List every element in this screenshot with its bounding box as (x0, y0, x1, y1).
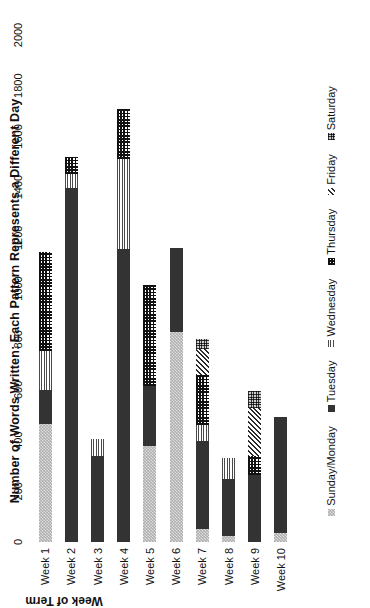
bar-segment-sunday-monday[interactable] (39, 424, 52, 542)
bar-segment-sunday-monday[interactable] (143, 446, 156, 542)
bar-segment-tuesday[interactable] (170, 248, 183, 332)
legend-label: Sunday/Monday (325, 426, 337, 506)
legend-label: Thursday (325, 209, 337, 255)
bar-segment-tuesday[interactable] (196, 441, 209, 530)
bar-segment-wednesday[interactable] (91, 439, 104, 455)
legend-swatch-icon (328, 188, 335, 195)
legend-item-wednesday[interactable]: Wednesday (325, 279, 337, 347)
category-axis-tick-label: Week 10 (275, 548, 287, 591)
bar-segment-tuesday[interactable] (143, 386, 156, 446)
legend-label: Friday (325, 154, 337, 185)
legend-swatch-icon (328, 340, 335, 347)
plot-area (32, 35, 294, 542)
category-axis-tick-label: Week 6 (170, 548, 182, 585)
bar-segment-saturday[interactable] (196, 339, 209, 349)
legend-item-thursday[interactable]: Thursday (325, 209, 337, 265)
category-axis-tick-label: Week 9 (249, 548, 261, 585)
bar-segment-wednesday[interactable] (196, 425, 209, 440)
category-axis: Week of Term Week 1Week 2Week 3Week 4Wee… (32, 542, 294, 602)
bar-segment-wednesday[interactable] (222, 458, 235, 478)
value-axis-tick-label: 1800 (12, 73, 24, 97)
bar-segment-friday[interactable] (248, 408, 261, 456)
bar-segment-tuesday[interactable] (39, 390, 52, 424)
bar-segment-tuesday[interactable] (274, 417, 287, 534)
legend-item-sunday-monday[interactable]: Sunday/Monday (325, 426, 337, 516)
legend-label: Wednesday (325, 279, 337, 337)
bar-row[interactable] (39, 35, 52, 542)
category-axis-tick-label: Week 8 (223, 548, 235, 585)
legend-item-friday[interactable]: Friday (325, 154, 337, 195)
bar-segment-tuesday[interactable] (65, 188, 78, 542)
value-axis-tick-label: 1400 (12, 175, 24, 199)
bar-row[interactable] (91, 35, 104, 542)
bar-segment-sunday-monday[interactable] (170, 332, 183, 542)
category-axis-title: Week of Term (0, 594, 195, 608)
bar-segment-wednesday[interactable] (117, 159, 130, 249)
legend-label: Tuesday (325, 361, 337, 403)
value-axis-tick-label: 600 (12, 381, 24, 399)
bar-segment-thursday[interactable] (143, 285, 156, 386)
bar-segment-wednesday[interactable] (65, 174, 78, 188)
bar-segment-wednesday[interactable] (39, 351, 52, 390)
bar-segment-tuesday[interactable] (248, 475, 261, 542)
value-axis-tick-label: 2000 (12, 23, 24, 47)
bar-segment-thursday[interactable] (65, 157, 78, 175)
bar-row[interactable] (117, 35, 130, 542)
value-axis-tick-label: 1000 (12, 276, 24, 300)
bar-segment-sunday-monday[interactable] (222, 536, 235, 542)
bar-row[interactable] (143, 35, 156, 542)
bar-row[interactable] (65, 35, 78, 542)
value-axis-tick-label: 400 (12, 431, 24, 449)
bar-segment-tuesday[interactable] (91, 456, 104, 542)
legend-item-saturday[interactable]: Saturday (325, 86, 337, 140)
value-axis-tick-label: 200 (12, 482, 24, 500)
bar-row[interactable] (248, 35, 261, 542)
bar-segment-thursday[interactable] (196, 375, 209, 426)
bar-segment-tuesday[interactable] (222, 479, 235, 536)
legend-swatch-icon (328, 258, 335, 265)
value-axis-tick-label: 800 (12, 330, 24, 348)
category-axis-tick-label: Week 3 (92, 548, 104, 585)
bar-segment-thursday[interactable] (117, 109, 130, 160)
bar-segment-saturday[interactable] (248, 391, 261, 407)
legend-swatch-icon (328, 405, 335, 412)
value-axis-tick-label: 0 (12, 539, 24, 545)
category-axis-tick-label: Week 1 (39, 548, 51, 585)
bar-segment-thursday[interactable] (248, 456, 261, 475)
bar-segment-sunday-monday[interactable] (274, 533, 287, 542)
legend-item-tuesday[interactable]: Tuesday (325, 361, 337, 413)
bar-row[interactable] (170, 35, 183, 542)
category-axis-tick-label: Week 2 (65, 548, 77, 585)
bar-row[interactable] (274, 35, 287, 542)
bar-row[interactable] (222, 35, 235, 542)
category-axis-tick-label: Week 7 (196, 548, 208, 585)
category-axis-tick-label: Week 5 (144, 548, 156, 585)
bar-segment-sunday-monday[interactable] (196, 529, 209, 542)
value-axis: 0200400600800100012001400160018002000 (0, 35, 32, 542)
category-axis-tick-label: Week 4 (118, 548, 130, 585)
value-axis-tick-label: 1200 (12, 226, 24, 250)
legend-label: Saturday (325, 86, 337, 130)
chart-legend: Sunday/MondayTuesdayWednesdayThursdayFri… (318, 0, 344, 602)
bar-row[interactable] (196, 35, 209, 542)
bar-segment-thursday[interactable] (39, 252, 52, 351)
legend-swatch-icon (328, 509, 335, 516)
value-axis-tick-label: 1600 (12, 124, 24, 148)
bar-segment-tuesday[interactable] (117, 249, 130, 542)
bar-segment-friday[interactable] (196, 349, 209, 374)
legend-swatch-icon (328, 133, 335, 140)
